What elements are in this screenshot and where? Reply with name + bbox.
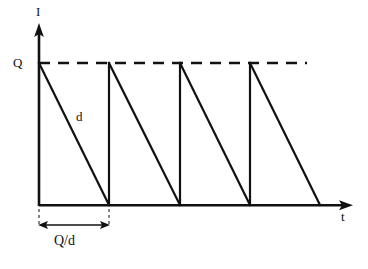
slope-label: d (76, 110, 83, 123)
chart-canvas (0, 0, 368, 269)
x-axis-label: t (341, 210, 345, 223)
x-axis (39, 200, 353, 210)
ramp-segment (39, 63, 109, 205)
peak-value-label: Q (13, 56, 22, 69)
y-axis-label: I (36, 5, 40, 18)
ramp-segment (250, 63, 320, 205)
period-label: Q/d (54, 234, 75, 248)
y-axis (34, 23, 44, 206)
sawtooth-inventory-chart: I Q d t Q/d (0, 0, 368, 269)
ramp-segment (180, 63, 250, 205)
sawtooth-waveform (39, 63, 320, 205)
ramp-segment (109, 63, 180, 205)
dimension-extension-lines (39, 209, 109, 226)
period-dimension-arrow (38, 221, 110, 229)
